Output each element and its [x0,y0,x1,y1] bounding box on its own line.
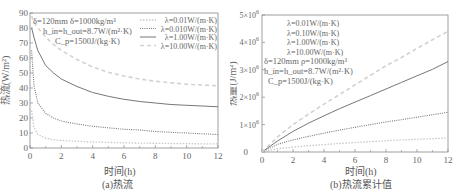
y-tick-label: 10 [19,128,29,138]
param-annotation: h_in=h_out=8.7W/(m²·K) [264,66,353,76]
y-tick-label: 70 [19,38,29,48]
y-tick-label: 50 [19,68,29,78]
x-tick-label: 6 [122,151,127,161]
y-tick-label: 5×106 [239,9,259,20]
y-axis-label: 热流(W/m²) [0,56,12,106]
legend-label: λ=0.01W/(m·K) [287,19,339,28]
param-annotation: C_p=1500J/(kg·K) [55,36,120,46]
series-line [32,111,218,144]
x-tick-label: 4 [322,155,327,165]
x-tick-label: 10 [413,155,423,165]
legend-label: λ=1.00W/(m·K) [287,38,339,47]
param-annotation: h_in=h_out=8.7W/(m²·K) [43,26,132,36]
series-line [32,51,218,135]
y-tick-label: 0 [24,143,29,153]
series-line [262,112,448,152]
y-tick-label: 20 [19,113,29,123]
x-tick-label: 12 [214,151,223,161]
cumulative-heat-chart: 02468101201×1062×1063×1064×1065×106热量(J/… [230,0,459,191]
heat-flux-chart: 0246810120102030405060708090热流(W/m²)δ=12… [0,0,230,191]
y-tick-label: 2×106 [239,91,259,102]
y-tick-label: 40 [19,83,29,93]
figure-caption: (b)热流累计值 [330,176,392,191]
y-tick-label: 30 [19,98,29,108]
param-annotation: C_p=1500J/(kg·K) [268,76,333,86]
x-tick-label: 8 [384,155,389,165]
x-tick-label: 0 [260,155,265,165]
x-tick-label: 12 [444,155,453,165]
x-tick-label: 0 [28,151,33,161]
param-annotation: δ=120mm δ=1000kg/m³ [33,16,116,26]
y-tick-label: 1×106 [239,119,259,130]
figure-caption: (a)热流 [102,176,133,191]
y-tick-label: 60 [19,53,29,63]
x-tick-label: 8 [153,151,158,161]
param-annotation: δ=120mm ρ=1000kg/m³ [264,56,347,66]
x-tick-label: 2 [59,151,64,161]
x-tick-label: 4 [90,151,95,161]
y-tick-label: 3×106 [239,64,259,75]
y-tick-label: 80 [19,23,29,33]
legend-label: λ=0.10W/(m·K) [287,29,339,38]
y-tick-label: 0 [244,147,249,157]
x-tick-label: 10 [182,151,192,161]
y-tick-label: 4×106 [239,36,259,47]
legend-label: λ=10.00W/(m·K) [287,48,343,57]
legend-label: λ=10.00W/(m·K) [161,42,217,51]
x-tick-label: 2 [291,155,296,165]
y-axis-label: 热量(J/m²) [230,61,239,105]
y-tick-label: 90 [19,8,29,18]
